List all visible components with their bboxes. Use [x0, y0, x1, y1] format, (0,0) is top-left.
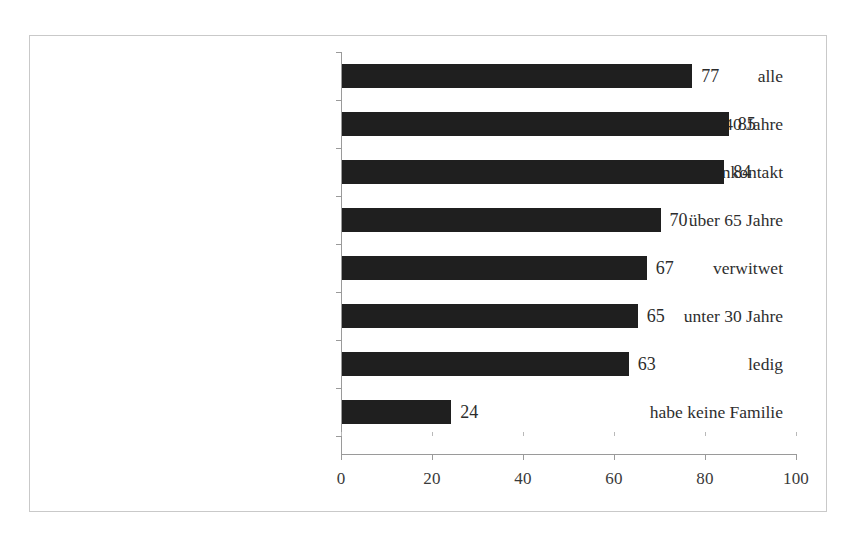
bar-row: verwitwet67	[341, 244, 797, 292]
bar-row: über 65 Jahre70	[341, 196, 797, 244]
y-axis-tick	[336, 340, 341, 341]
bar-value-label: 67	[647, 256, 674, 280]
bar-row: ledig63	[341, 340, 797, 388]
x-axis-line	[341, 454, 797, 455]
bar	[342, 112, 729, 136]
x-axis-tick	[523, 455, 524, 460]
plot-area: alle77über 40 Jahre85sehr häufig Familie…	[341, 52, 797, 455]
x-axis-tick-upper	[796, 432, 797, 436]
bar-row: unter 30 Jahre65	[341, 292, 797, 340]
bar-value-label: 85	[729, 112, 756, 136]
x-axis-tick-label: 100	[783, 469, 809, 489]
bar-row: sehr häufig Familienkontakt84	[341, 148, 797, 196]
x-axis-tick	[432, 455, 433, 460]
bar-row: alle77	[341, 52, 797, 100]
y-axis-tick	[336, 292, 341, 293]
bar	[342, 400, 451, 424]
x-axis-tick-label: 20	[423, 469, 440, 489]
x-axis-tick	[705, 455, 706, 460]
bar	[342, 160, 724, 184]
y-axis-tick	[336, 196, 341, 197]
x-axis-tick-label: 60	[605, 469, 622, 489]
y-axis-tick	[336, 100, 341, 101]
x-axis-tick	[614, 455, 615, 460]
bar-value-label: 77	[692, 64, 719, 88]
bar	[342, 208, 661, 232]
bar-value-label: 84	[724, 160, 751, 184]
chart-figure: alle77über 40 Jahre85sehr häufig Familie…	[29, 35, 827, 512]
bar-value-label: 24	[451, 400, 478, 424]
x-axis-tick-upper	[705, 432, 706, 436]
x-axis-tick	[796, 455, 797, 460]
bar-value-label: 65	[638, 304, 665, 328]
x-axis-tick-upper	[432, 432, 433, 436]
bar	[342, 352, 629, 376]
bar	[342, 304, 638, 328]
y-axis-tick	[336, 148, 341, 149]
x-axis-tick	[341, 455, 342, 460]
bar-value-label: 70	[661, 208, 688, 232]
bar	[342, 64, 692, 88]
y-axis-tick	[336, 244, 341, 245]
y-axis-tick	[336, 388, 341, 389]
bar-row: über 40 Jahre85	[341, 100, 797, 148]
bar	[342, 256, 647, 280]
y-axis-tick	[336, 436, 341, 437]
x-axis-tick-upper	[523, 432, 524, 436]
x-axis-tick-label: 0	[337, 469, 346, 489]
x-axis-tick-label: 80	[696, 469, 713, 489]
y-axis-tick	[336, 52, 341, 53]
bar-value-label: 63	[629, 352, 656, 376]
x-axis-tick-upper	[341, 432, 342, 436]
bar-row: habe keine Familie24	[341, 388, 797, 436]
x-axis-tick-label: 40	[514, 469, 531, 489]
x-axis-tick-upper	[614, 432, 615, 436]
